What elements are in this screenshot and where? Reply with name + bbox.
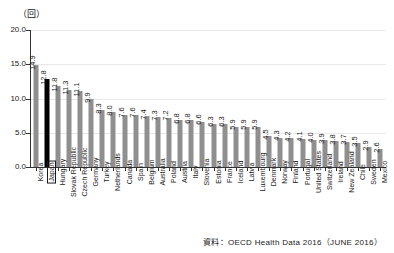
bar-value-label: 2.6 xyxy=(373,142,381,152)
bar-value-label: 6.3 xyxy=(217,117,225,127)
bar-slot: 2.6 xyxy=(375,30,386,167)
bar-value-label: 14.9 xyxy=(28,56,36,71)
bar-value-label: 4.2 xyxy=(284,131,292,141)
bar-slot: 5.9 xyxy=(253,30,264,167)
bar-slot: 4.3 xyxy=(275,30,286,167)
y-tick-label: 20.0 xyxy=(2,25,26,34)
bar-slot: 6.3 xyxy=(219,30,230,167)
bar-slot: 4.0 xyxy=(308,30,319,167)
bar-slot: 8.3 xyxy=(97,30,108,167)
bar-slot: 6.8 xyxy=(186,30,197,167)
x-label-slot: Sweden xyxy=(364,172,375,230)
y-tick-label: 15.0 xyxy=(2,59,26,68)
x-label-slot: Mexico xyxy=(375,172,386,230)
x-label-slot: Finland xyxy=(286,172,297,230)
bar-value-label: 2.9 xyxy=(362,140,370,150)
bar-value-label: 11.8 xyxy=(50,77,58,91)
bar[interactable] xyxy=(55,86,60,167)
bar-value-label: 4.5 xyxy=(262,129,270,139)
bar-value-label: 3.7 xyxy=(340,134,348,144)
x-label-slot: Switzerland xyxy=(319,172,330,230)
bar-slot: 7.6 xyxy=(119,30,130,167)
x-label-slot: Australia xyxy=(152,172,163,230)
bar-value-label: 7.4 xyxy=(139,109,147,119)
x-label-slot: Spain xyxy=(130,172,141,230)
bar-value-label: 9.9 xyxy=(84,92,92,102)
bar-value-label: 5.9 xyxy=(228,119,236,129)
x-label-slot: Czech Republic xyxy=(75,172,86,230)
bar-value-label: 5.9 xyxy=(251,119,259,129)
x-label-slot: Estonia xyxy=(208,172,219,230)
bar-slot: 3.8 xyxy=(330,30,341,167)
x-label-slot: Luxembourg xyxy=(253,172,264,230)
x-label-slot: United States xyxy=(308,172,319,230)
x-label-slot: Slovak Republic xyxy=(63,172,74,230)
bar-value-label: 11.3 xyxy=(61,81,69,95)
bar[interactable] xyxy=(33,65,38,167)
x-label-slot: Denmark xyxy=(264,172,275,230)
bar-highlighted[interactable] xyxy=(44,79,49,167)
bar-slot: 4.1 xyxy=(297,30,308,167)
x-label-slot: Hungary xyxy=(52,172,63,230)
x-label-slot: Latvia xyxy=(241,172,252,230)
bar-slot: 7.3 xyxy=(152,30,163,167)
y-tick-label: 5.0 xyxy=(2,128,26,137)
bar-slot: 5.9 xyxy=(230,30,241,167)
bar-value-label: 3.8 xyxy=(328,134,336,144)
x-label-slot: Norway xyxy=(275,172,286,230)
x-label-slot: Netherlands xyxy=(108,172,119,230)
bar-value-label: 7.6 xyxy=(128,108,136,118)
x-axis-category-labels: KoreaJapanHungarySlovak RepublicCzech Re… xyxy=(30,172,386,230)
bar-value-label: 6.6 xyxy=(195,115,203,125)
bar-value-label: 7.2 xyxy=(162,110,170,120)
x-label-slot: France xyxy=(219,172,230,230)
x-label-slot: Poland xyxy=(164,172,175,230)
x-label-slot: Chile xyxy=(353,172,364,230)
bar-value-label: 5.9 xyxy=(239,119,247,129)
x-label-slot: Iceland xyxy=(230,172,241,230)
x-category-label[interactable]: Mexico xyxy=(380,160,389,184)
chart-figure: （回） 0.05.010.015.020.0 14.912.811.811.31… xyxy=(0,0,394,253)
x-label-slot: Canada xyxy=(119,172,130,230)
bar-slot: 14.9 xyxy=(30,30,41,167)
x-label-slot: Germany xyxy=(86,172,97,230)
bar-value-label: 7.6 xyxy=(117,108,125,118)
bar-slot: 5.9 xyxy=(241,30,252,167)
bar-slot: 6.3 xyxy=(208,30,219,167)
bar-slot: 7.2 xyxy=(164,30,175,167)
bar-value-label: 8.0 xyxy=(106,105,114,115)
bar-slot: 11.8 xyxy=(52,30,63,167)
bar-value-label: 4.1 xyxy=(295,132,303,142)
bar-slot: 7.6 xyxy=(130,30,141,167)
bar-value-label: 6.8 xyxy=(184,113,192,123)
bar[interactable] xyxy=(189,120,194,167)
x-label-slot: Ireland xyxy=(330,172,341,230)
x-label-slot: New Zealand xyxy=(342,172,353,230)
y-axis-unit-label: （回） xyxy=(18,7,45,20)
bar-value-label: 7.3 xyxy=(150,110,158,120)
bar-value-label: 8.3 xyxy=(95,103,103,113)
bar-value-label: 6.8 xyxy=(173,113,181,123)
bar-value-label: 6.3 xyxy=(206,117,214,127)
bar[interactable] xyxy=(100,110,105,167)
source-note: 資料：OECD Health Data 2016（JUNE 2016） xyxy=(203,236,382,247)
bar-slot: 4.5 xyxy=(264,30,275,167)
x-label-slot: Austria xyxy=(175,172,186,230)
x-label-slot: Belgium xyxy=(141,172,152,230)
bar-slot: 8.0 xyxy=(108,30,119,167)
bar-value-label: 4.3 xyxy=(273,130,281,140)
x-label-slot: Italy xyxy=(186,172,197,230)
y-tick-label: 10.0 xyxy=(2,94,26,103)
bar-value-label: 4.0 xyxy=(306,132,314,142)
x-label-slot: Japan xyxy=(41,172,52,230)
x-label-slot: Turkey xyxy=(97,172,108,230)
bar-slot: 6.6 xyxy=(197,30,208,167)
x-label-slot: Korea xyxy=(30,172,41,230)
bar-slot: 7.4 xyxy=(141,30,152,167)
bar-slot: 4.2 xyxy=(286,30,297,167)
y-tick-label: 0.0 xyxy=(2,162,26,171)
x-label-slot: Portugal xyxy=(297,172,308,230)
bar-value-label: 11.1 xyxy=(73,82,81,96)
bar-value-label: 3.5 xyxy=(351,136,359,146)
x-label-slot: Slovenia xyxy=(197,172,208,230)
